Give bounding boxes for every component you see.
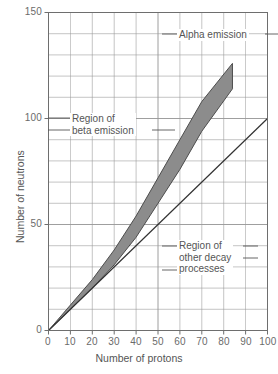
x-tick-label-10: 10 — [60, 336, 80, 347]
belt-of-stability-band — [49, 63, 233, 330]
x-axis-title: Number of protons — [0, 352, 278, 364]
annotation-other-line1: Region of — [179, 240, 231, 252]
annotation-leader-lines — [48, 34, 278, 270]
x-tick-label-70: 70 — [192, 336, 212, 347]
annotation-other-line2: other decay — [179, 252, 231, 264]
nuclear-stability-chart: 150 100 50 0 0 10 20 30 40 50 60 70 80 9… — [0, 0, 278, 374]
x-tick-label-100: 100 — [258, 336, 278, 347]
chart-plot-area — [0, 0, 278, 374]
x-tick-label-50: 50 — [148, 336, 168, 347]
tick-marks — [45, 13, 268, 335]
x-tick-label-80: 80 — [214, 336, 234, 347]
x-tick-label-90: 90 — [236, 336, 256, 347]
y-tick-label-150: 150 — [8, 6, 42, 17]
y-tick-label-100: 100 — [8, 112, 42, 123]
y-tick-label-0: 0 — [8, 324, 42, 335]
annotation-beta-emission: Region of beta emission — [70, 113, 136, 136]
annotation-beta-line1: Region of — [72, 113, 134, 125]
annotation-alpha-line1: Alpha emission — [179, 29, 247, 41]
annotation-other-decay: Region of other decay processes — [177, 240, 233, 275]
x-tick-label-60: 60 — [170, 336, 190, 347]
x-tick-label-40: 40 — [126, 336, 146, 347]
annotation-alpha-emission: Alpha emission — [177, 29, 249, 41]
annotation-beta-line2: beta emission — [72, 125, 134, 137]
x-tick-label-30: 30 — [104, 336, 124, 347]
x-tick-label-20: 20 — [82, 336, 102, 347]
gridlines — [49, 13, 268, 331]
x-tick-label-0: 0 — [38, 336, 58, 347]
annotation-other-line3: processes — [179, 263, 231, 275]
y-axis-title: Number of neutrons — [14, 150, 26, 243]
